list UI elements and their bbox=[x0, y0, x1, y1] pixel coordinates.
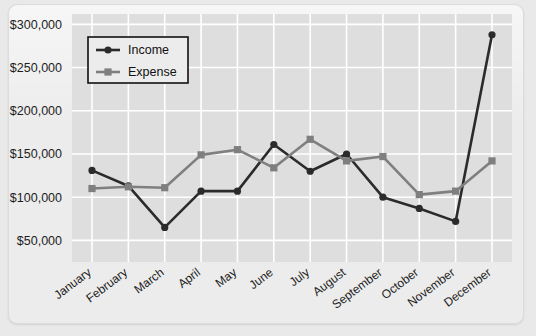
data-point-expense bbox=[379, 153, 386, 160]
y-tick-label: $100,000 bbox=[10, 191, 62, 205]
data-point-expense bbox=[234, 146, 241, 153]
data-point-expense bbox=[125, 183, 132, 190]
data-point-income bbox=[270, 141, 277, 148]
data-point-income bbox=[379, 194, 386, 201]
data-point-expense bbox=[197, 151, 204, 158]
data-point-income bbox=[88, 167, 95, 174]
x-tick-label-may: May bbox=[213, 265, 240, 290]
data-point-expense bbox=[343, 157, 350, 164]
data-point-income bbox=[234, 188, 241, 195]
x-tick-label-july: July bbox=[287, 265, 312, 289]
data-point-expense bbox=[488, 157, 495, 164]
data-point-expense bbox=[161, 184, 168, 191]
x-tick-label-march: March bbox=[131, 265, 166, 296]
y-tick-label: $50,000 bbox=[17, 234, 62, 248]
data-point-income bbox=[416, 205, 423, 212]
x-tick-label-april: April bbox=[175, 265, 203, 291]
data-point-expense bbox=[307, 136, 314, 143]
y-tick-label: $250,000 bbox=[10, 61, 62, 75]
legend-label-expense: Expense bbox=[128, 65, 177, 79]
y-tick-label: $200,000 bbox=[10, 104, 62, 118]
x-tick-label-february: February bbox=[83, 265, 130, 305]
chart-container: $50,000$100,000$150,000$200,000$250,000$… bbox=[0, 0, 536, 336]
legend-swatch-marker-expense bbox=[104, 68, 111, 75]
y-tick-label: $300,000 bbox=[10, 18, 62, 32]
data-point-income bbox=[161, 224, 168, 231]
data-point-expense bbox=[270, 164, 277, 171]
line-chart: $50,000$100,000$150,000$200,000$250,000$… bbox=[0, 0, 536, 336]
data-point-income bbox=[197, 188, 204, 195]
data-point-expense bbox=[416, 191, 423, 198]
legend-swatch-marker-income bbox=[104, 46, 111, 53]
x-tick-label-june: June bbox=[246, 265, 275, 292]
y-tick-label: $150,000 bbox=[10, 147, 62, 161]
data-point-expense bbox=[88, 185, 95, 192]
chart-legend: IncomeExpense bbox=[88, 37, 188, 83]
x-axis-tick-labels: JanuaryFebruaryMarchAprilMayJuneJulyAugu… bbox=[51, 265, 494, 312]
data-point-income bbox=[452, 218, 459, 225]
data-point-income bbox=[488, 31, 495, 38]
data-point-expense bbox=[452, 188, 459, 195]
data-point-income bbox=[307, 168, 314, 175]
legend-label-income: Income bbox=[128, 43, 169, 57]
y-axis-tick-labels: $50,000$100,000$150,000$200,000$250,000$… bbox=[10, 18, 62, 248]
data-point-income bbox=[343, 150, 350, 157]
